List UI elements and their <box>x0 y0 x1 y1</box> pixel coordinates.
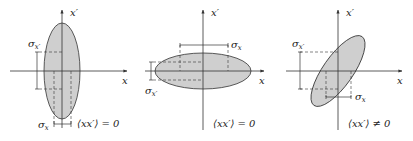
panel-vertical-ellipse: x′ x σx′ σx ⟨xx′⟩ = 0 <box>10 7 128 132</box>
x-axis-label: x <box>397 75 403 86</box>
sigma-x-label: σx <box>355 91 366 104</box>
sigma-x-label: σx <box>231 39 242 52</box>
xprime-axis-label: x′ <box>346 7 355 18</box>
correlation-label: ⟨xx′⟩ ≠ 0 <box>348 118 391 129</box>
xprime-axis-label: x′ <box>211 7 220 18</box>
correlation-label: ⟨xx′⟩ = 0 <box>213 118 256 129</box>
sigma-xp-label: σx′ <box>292 38 305 51</box>
panel-horizontal-ellipse: x′ x σx σx′ ⟨xx′⟩ = 0 <box>145 7 265 130</box>
sigma-x-label: σx <box>38 119 49 132</box>
xprime-axis-label: x′ <box>70 7 79 18</box>
correlation-label: ⟨xx′⟩ = 0 <box>77 118 120 129</box>
phase-space-diagram: x′ x σx′ σx ⟨xx′⟩ = 0 x′ x σx σx′ ⟨xx′⟩ … <box>0 0 413 141</box>
x-axis-label: x <box>122 75 128 86</box>
panel-tilted-ellipse: x′ x σx′ σx ⟨xx′⟩ ≠ 0 <box>286 7 403 130</box>
sigma-xp-label: σx′ <box>145 85 158 98</box>
x-axis-label: x <box>259 75 265 86</box>
sigma-xp-label: σx′ <box>28 38 41 51</box>
